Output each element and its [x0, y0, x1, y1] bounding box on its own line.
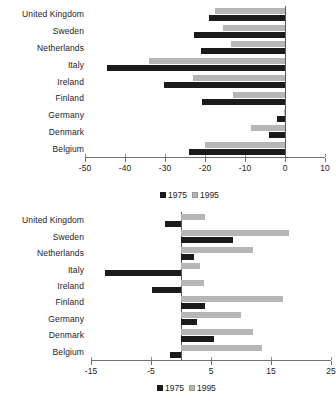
x-axis-tick-label: 0	[270, 163, 300, 173]
zero-axis-line	[285, 6, 286, 157]
bar-1995	[149, 58, 285, 64]
x-axis-tick-label: -30	[150, 163, 180, 173]
bar-1995	[231, 41, 285, 47]
x-axis-tick	[85, 158, 86, 162]
category-label: Sweden	[0, 232, 84, 242]
chart-bottom: United KingdomSwedenNetherlandsItalyIrel…	[0, 200, 336, 399]
x-axis-tick-inner	[331, 357, 332, 360]
chart-top: United KingdomSwedenNetherlandsItalyIrel…	[0, 0, 336, 200]
x-axis-tick	[325, 158, 326, 162]
x-axis-tick-label: -50	[70, 163, 100, 173]
legend-item: 1995	[189, 383, 216, 393]
bar-1975	[107, 65, 285, 71]
bar-1975	[181, 336, 214, 342]
legend-swatch-icon	[189, 385, 195, 391]
x-axis-tick-label: 5	[196, 366, 226, 376]
bar-1995	[251, 125, 285, 131]
legend-swatch-icon	[192, 192, 198, 198]
bar-1975	[181, 237, 233, 243]
x-axis-tick-inner	[165, 154, 166, 157]
legend-label: 1995	[200, 190, 219, 200]
legend-item: 1975	[160, 190, 187, 200]
x-axis-tick-inner	[91, 357, 92, 360]
legend-item: 1995	[192, 190, 219, 200]
category-label: Finland	[0, 297, 84, 307]
bar-1975	[209, 15, 285, 21]
bar-1995	[181, 345, 262, 351]
category-label: Germany	[0, 110, 84, 120]
legend-label: 1975	[168, 190, 187, 200]
bar-1995	[181, 296, 283, 302]
bar-1975	[277, 116, 285, 122]
bar-1995	[181, 247, 253, 253]
bar-1975	[164, 82, 285, 88]
x-axis-tick-inner	[125, 154, 126, 157]
bar-1995	[181, 214, 205, 220]
x-axis-tick-label: -15	[76, 366, 106, 376]
bar-1975	[105, 270, 181, 276]
category-label: Italy	[0, 60, 84, 70]
legend-middle: 19751995	[160, 190, 219, 200]
bar-1995	[284, 109, 285, 115]
category-label: Denmark	[0, 330, 84, 340]
category-label: United Kingdom	[0, 215, 84, 225]
x-axis-tick	[125, 158, 126, 162]
legend-item: 1975	[157, 383, 184, 393]
bar-1975	[201, 48, 285, 54]
x-axis-tick-inner	[211, 357, 212, 360]
bar-1975	[181, 254, 194, 260]
x-axis-tick-label: -20	[190, 163, 220, 173]
x-axis-tick-label: 25	[316, 366, 336, 376]
bar-1995	[181, 230, 289, 236]
bar-1975	[194, 32, 285, 38]
category-label: Netherlands	[0, 43, 84, 53]
bar-1995	[205, 142, 285, 148]
category-label: United Kingdom	[0, 9, 84, 19]
x-axis-tick-label: 10	[310, 163, 336, 173]
bar-1995	[181, 312, 241, 318]
legend-swatch-icon	[157, 385, 163, 391]
category-label: Belgium	[0, 347, 84, 357]
bar-1975	[165, 221, 181, 227]
legend-label: 1995	[197, 383, 216, 393]
legend-label: 1975	[165, 383, 184, 393]
x-axis-tick-label: -40	[110, 163, 140, 173]
bar-1995	[215, 8, 285, 14]
bar-1975	[189, 149, 285, 155]
bar-1995	[181, 329, 253, 335]
x-axis-tick-label: 15	[256, 366, 286, 376]
category-label: Ireland	[0, 77, 84, 87]
category-label: Ireland	[0, 281, 84, 291]
category-label: Sweden	[0, 26, 84, 36]
category-label: Finland	[0, 93, 84, 103]
chart-bottom-plot-area: -15-551525	[91, 212, 331, 360]
category-label: Italy	[0, 265, 84, 275]
x-axis-tick	[285, 158, 286, 162]
x-axis-tick-label: -10	[230, 163, 260, 173]
x-axis-tick	[165, 158, 166, 162]
bar-1975	[152, 287, 181, 293]
bar-1975	[181, 319, 197, 325]
x-axis-tick-inner	[271, 357, 272, 360]
chart-top-plot-area: -50-40-30-20-10010	[85, 6, 325, 157]
bar-1995	[193, 75, 285, 81]
bar-1975	[181, 303, 205, 309]
bar-1975	[170, 352, 181, 358]
x-axis-tick-inner	[151, 357, 152, 360]
bar-1975	[269, 132, 285, 138]
category-label: Belgium	[0, 144, 84, 154]
x-axis-tick-inner	[325, 154, 326, 157]
legend-swatch-icon	[160, 192, 166, 198]
x-axis-tick-label: -5	[136, 366, 166, 376]
legend-bottom: 19751995	[157, 383, 216, 393]
x-axis-tick	[271, 361, 272, 365]
category-label: Germany	[0, 314, 84, 324]
x-axis-tick	[151, 361, 152, 365]
x-axis-tick-inner	[85, 154, 86, 157]
x-axis-tick	[245, 158, 246, 162]
x-axis-tick	[331, 361, 332, 365]
x-axis-tick	[211, 361, 212, 365]
bar-1995	[181, 280, 204, 286]
bar-1995	[233, 92, 285, 98]
category-label: Netherlands	[0, 248, 84, 258]
